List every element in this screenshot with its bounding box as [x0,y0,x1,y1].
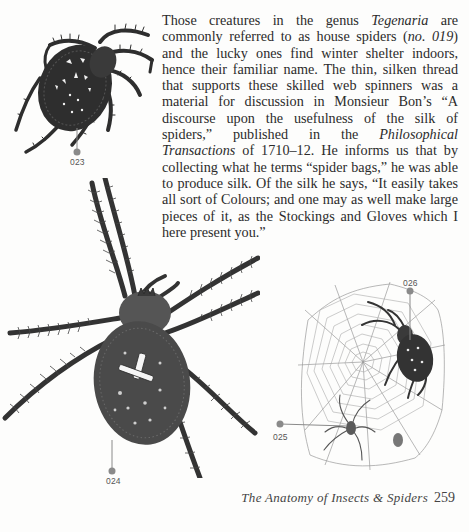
text-segment-italic: Tegenaria [371,12,428,28]
text-segment: Those creatures in the genus [162,12,371,28]
text-segment-italic: no. 019 [408,28,454,44]
spider-illustration-024 [0,178,260,478]
figure-label-026: 026 [403,278,418,288]
running-title: The Anatomy of Insects & Spiders [241,490,428,505]
page-footer: The Anatomy of Insects & Spiders259 [241,490,455,506]
figure-label-025: 025 [273,432,288,442]
figure-label-023: 023 [70,157,85,167]
page-number: 259 [434,490,455,505]
spider-web-illustration [250,270,469,480]
figure-label-024: 024 [106,476,121,486]
text-segment: ) and the lucky ones find winter shelter… [162,28,458,142]
spider-illustration-023 [0,0,160,170]
book-page: Those creatures in the genus Tegenaria a… [0,0,469,532]
